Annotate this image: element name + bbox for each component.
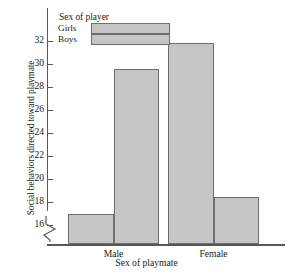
y-tick-label: 22	[34, 149, 44, 160]
legend-item-girls: Girls	[58, 23, 170, 34]
y-tick-label: 20	[34, 172, 44, 183]
legend-item-boys: Boys	[58, 34, 170, 45]
x-axis-line	[47, 244, 285, 245]
y-tick-label: 24	[34, 126, 44, 137]
bar-female-boys	[214, 197, 260, 244]
y-tick-label: 18	[34, 195, 44, 206]
y-axis-title: Social behaviors directed toward playmat…	[26, 38, 36, 238]
y-tick-mark	[47, 156, 53, 157]
legend: Sex of player GirlsBoys	[58, 12, 170, 45]
y-tick-mark	[47, 87, 53, 88]
y-tick-mark	[47, 110, 53, 111]
y-tick-mark	[47, 41, 53, 42]
y-tick-mark	[47, 64, 53, 65]
y-axis-break-icon	[40, 216, 62, 242]
bar-chart: Social behaviors directed toward playmat…	[0, 0, 293, 277]
y-tick-mark	[47, 133, 53, 134]
legend-rows: GirlsBoys	[58, 23, 170, 45]
legend-label: Girls	[58, 23, 91, 34]
y-tick-label: 28	[34, 80, 44, 91]
legend-swatch	[91, 23, 170, 34]
legend-label: Boys	[58, 34, 91, 45]
y-tick-label: 32	[34, 34, 44, 45]
y-tick-label: 30	[34, 57, 44, 68]
y-tick-mark	[47, 202, 53, 203]
legend-title: Sex of player	[58, 12, 170, 22]
legend-swatch	[91, 34, 170, 45]
y-tick-mark	[47, 179, 53, 180]
bar-female-girls	[168, 43, 214, 244]
bar-male-boys	[114, 69, 160, 245]
bar-male-girls	[68, 214, 114, 245]
x-axis-title: Sex of playmate	[0, 257, 293, 268]
y-tick-label: 26	[34, 103, 44, 114]
